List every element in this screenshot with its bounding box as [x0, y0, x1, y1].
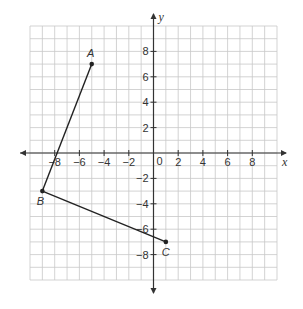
point-C	[164, 240, 169, 245]
x-tick-label: −4	[98, 156, 111, 168]
y-tick-label: 8	[142, 45, 148, 57]
x-tick-label: 4	[200, 156, 206, 168]
y-axis-down-arrow-icon	[151, 288, 157, 294]
y-tick-label: 2	[142, 122, 148, 134]
y-tick-label: 4	[142, 96, 148, 108]
y-axis-up-arrow-icon	[151, 13, 157, 19]
x-tick-label: −2	[123, 156, 136, 168]
point-label-C: C	[162, 246, 170, 258]
y-tick-label: 6	[142, 71, 148, 83]
axes	[20, 13, 287, 294]
y-tick-label: −2	[136, 172, 149, 184]
x-tick-label: −6	[73, 156, 86, 168]
x-tick-label: 6	[225, 156, 231, 168]
origin-label: 0	[157, 155, 163, 167]
x-axis-label: x	[281, 155, 288, 169]
y-tick-label: −8	[136, 249, 149, 261]
point-label-B: B	[37, 195, 44, 207]
coordinate-plane: −8−6−4−224688642−2−4−6−8 ABC x y 0	[0, 0, 303, 309]
point-label-A: A	[86, 47, 94, 59]
point-A	[89, 62, 94, 67]
x-tick-label: 8	[249, 156, 255, 168]
y-tick-label: −4	[136, 198, 149, 210]
y-axis-label: y	[158, 10, 165, 24]
point-B	[40, 189, 45, 194]
x-axis-left-arrow-icon	[20, 150, 26, 156]
x-tick-label: 2	[175, 156, 181, 168]
